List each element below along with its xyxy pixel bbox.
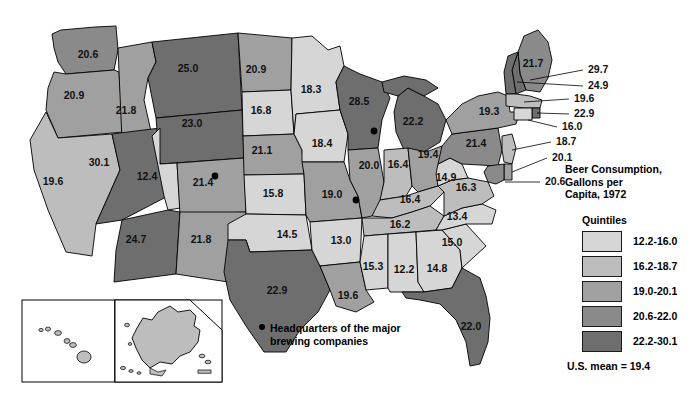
state-value-texas: 22.9 (267, 284, 288, 296)
state-maryland[interactable] (484, 164, 504, 184)
state-value-oregon: 20.9 (64, 89, 85, 101)
state-connecticut[interactable] (514, 108, 532, 120)
state-value-illinois: 20.0 (359, 159, 380, 171)
callout-value-new-jersey: 18.7 (556, 135, 577, 147)
state-value-michigan: 22.2 (403, 115, 424, 127)
state-value-ohio: 19.4 (418, 148, 439, 160)
state-value-idaho: 21.8 (116, 104, 137, 116)
hq-dot-st--louis (353, 197, 360, 204)
callout-value-maryland: 20.6 (545, 175, 566, 187)
hq-dot-milwaukee (371, 128, 378, 135)
state-oregon[interactable] (46, 70, 123, 138)
us-mean-note: U.S. mean = 19.4 (567, 360, 687, 372)
state-value-south-carolina: 15.0 (442, 236, 463, 248)
state-value-west-virginia: 14.9 (436, 171, 457, 183)
state-value-kentucky: 16.4 (400, 193, 421, 205)
state-value-wisconsin: 28.5 (349, 95, 370, 107)
legend-swatch-1 (582, 231, 622, 252)
state-value-new-mexico: 21.8 (191, 233, 212, 245)
state-value-indiana: 16.4 (388, 158, 409, 170)
state-value-colorado: 21.4 (193, 176, 214, 188)
callout-value-delaware: 20.1 (552, 151, 573, 163)
state-value-arkansas: 13.0 (331, 234, 352, 246)
legend-row-1[interactable]: 12.2-16.0 (565, 231, 687, 252)
state-value-virginia: 16.3 (456, 181, 477, 193)
state-value-california: 19.6 (43, 175, 64, 187)
state-value-florida: 22.0 (461, 320, 482, 332)
state-value-south-dakota: 16.8 (251, 104, 272, 116)
state-value-washington: 20.6 (78, 48, 99, 60)
legend-label-5: 22.2-30.1 (633, 335, 677, 347)
callout-value-new-hampshire: 24.9 (588, 79, 609, 91)
callout-value-connecticut: 16.0 (562, 120, 583, 132)
hq-legend-note: Headquarters of the major brewing compan… (259, 322, 449, 347)
legend-row-3[interactable]: 19.0-20.1 (565, 281, 687, 302)
state-value-oklahoma: 14.5 (277, 228, 298, 240)
state-value-iowa: 18.4 (312, 137, 333, 149)
legend-swatch-3 (582, 281, 622, 302)
legend-swatch-2 (582, 256, 622, 277)
state-value-nevada: 30.1 (89, 156, 110, 168)
hq-dot-icon (259, 324, 265, 330)
state-value-arizona: 24.7 (126, 233, 147, 245)
hq-note-line1: Headquarters of the major (270, 322, 401, 334)
state-value-north-carolina: 13.4 (447, 210, 468, 222)
state-value-pennsylvania: 21.4 (466, 137, 487, 149)
legend-label-2: 16.2-18.7 (633, 260, 677, 272)
hq-note-line2: brewing companies (270, 335, 449, 348)
legend-swatch-5 (582, 331, 622, 352)
state-value-louisiana: 19.6 (338, 289, 359, 301)
state-value-tennessee: 16.2 (390, 218, 411, 230)
state-value-mississippi: 15.3 (363, 260, 384, 272)
legend-quintiles-label: Quintiles (582, 214, 687, 226)
legend-label-4: 20.6-22.0 (633, 310, 677, 322)
state-delaware[interactable] (504, 164, 512, 180)
legend-swatch-4 (582, 306, 622, 327)
state-new-jersey[interactable] (502, 134, 516, 164)
state-montana[interactable] (148, 33, 242, 118)
legend-row-2[interactable]: 16.2-18.7 (565, 256, 687, 277)
state-value-georgia: 14.8 (427, 262, 448, 274)
state-value-maine: 21.7 (523, 57, 544, 69)
legend-label-3: 19.0-20.1 (633, 285, 677, 297)
state-iowa[interactable] (294, 110, 348, 162)
state-value-north-dakota: 20.9 (246, 63, 267, 75)
callout-value-vermont: 29.7 (588, 63, 609, 75)
state-value-kansas: 15.8 (263, 187, 284, 199)
state-value-new-york: 19.3 (479, 105, 500, 117)
state-value-alabama: 12.2 (394, 263, 415, 275)
state-value-utah: 12.4 (137, 170, 158, 182)
state-value-montana: 25.0 (178, 62, 199, 74)
state-value-missouri: 19.0 (322, 188, 343, 200)
state-value-nebraska: 21.1 (252, 144, 273, 156)
hq-dot-denver (212, 173, 219, 180)
callout-value-massachusetts: 19.6 (574, 92, 595, 104)
beer-consumption-map: 20.620.919.621.830.125.023.012.421.424.7… (0, 0, 692, 398)
state-value-wyoming: 23.0 (182, 117, 203, 129)
state-arizona[interactable] (114, 210, 180, 282)
legend-label-1: 12.2-16.0 (633, 235, 677, 247)
legend-panel: Beer Consumption, Gallons per Capita, 19… (565, 163, 687, 372)
legend-row-4[interactable]: 20.6-22.0 (565, 306, 687, 327)
callout-value-rhode-island: 22.9 (574, 107, 595, 119)
legend-title: Beer Consumption, Gallons per Capita, 19… (565, 163, 687, 201)
state-value-minnesota: 18.3 (301, 83, 322, 95)
legend-row-5[interactable]: 22.2-30.1 (565, 331, 687, 352)
